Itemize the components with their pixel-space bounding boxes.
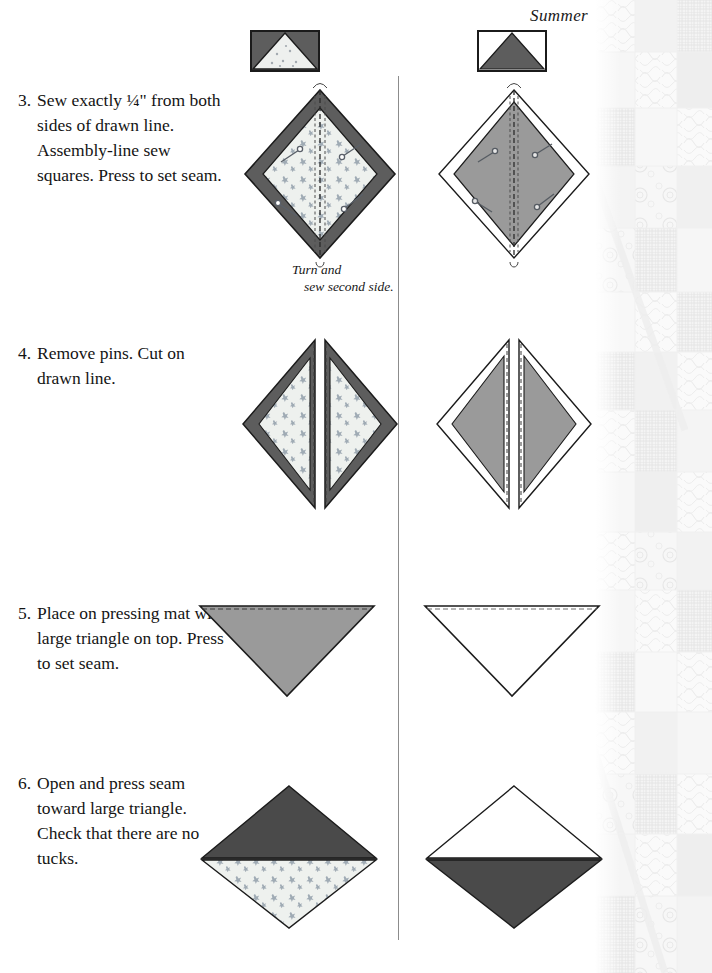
step-6-number: 6. [18,771,31,796]
step-4-instruction: 4. Remove pins. Cut on drawn line. [18,341,223,391]
figure-step4-left [243,336,398,521]
left-block-thumbnail [250,30,320,72]
figure-step5-right [421,600,603,700]
figure-step4-right [432,336,597,521]
figure-step5-left [196,600,378,700]
column-divider [398,76,399,940]
page-header-season: Summer [530,6,588,26]
figure-step6-right [421,782,607,932]
figure-step3-left [243,82,398,272]
figure-step3-right [432,82,597,272]
step-5-number: 5. [18,601,31,626]
step-3-text: Sew exactly ¼" from both sides of drawn … [37,88,223,188]
step-4-number: 4. [18,341,31,366]
step-3-instruction: 3. Sew exactly ¼" from both sides of dra… [18,88,223,188]
step-4-text: Remove pins. Cut on drawn line. [37,341,223,391]
caption-line-2: sew second side. [304,278,394,295]
figure-step6-left [196,782,382,932]
page-canvas: Summer 3. Sew exactly ¼" from both sides… [0,0,712,973]
figure-caption-turn-and-sew: Turn and sew second side. [292,261,394,295]
step-3-number: 3. [18,88,31,113]
right-block-thumbnail [477,30,547,72]
caption-line-1: Turn and [292,262,341,277]
quilt-photo-watermark [595,0,712,973]
